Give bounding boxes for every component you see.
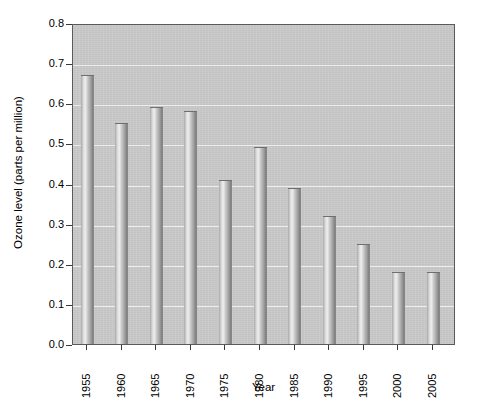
x-axis-title: Year xyxy=(72,381,455,393)
x-axis-tick xyxy=(432,345,433,350)
bar xyxy=(219,180,232,345)
bar xyxy=(288,188,301,344)
y-axis-tick-label: 0.5 xyxy=(6,138,64,149)
y-axis-tick-label: 0.8 xyxy=(6,18,64,29)
bar xyxy=(184,111,197,344)
bar xyxy=(254,147,267,344)
y-axis-tick xyxy=(66,144,72,145)
gridline xyxy=(73,145,454,146)
y-axis-tick xyxy=(66,345,72,346)
x-axis-tick xyxy=(294,345,295,350)
x-axis-tick xyxy=(259,345,260,350)
gridline xyxy=(73,65,454,66)
y-axis-tick xyxy=(66,185,72,186)
y-axis-tick xyxy=(66,104,72,105)
y-axis-tick-label: 0.0 xyxy=(6,339,64,350)
y-axis-tick xyxy=(66,225,72,226)
y-axis-tick-label: 0.3 xyxy=(6,219,64,230)
x-axis-tick xyxy=(397,345,398,350)
gridline xyxy=(73,105,454,106)
x-axis-tick xyxy=(363,345,364,350)
bar xyxy=(115,123,128,344)
bar xyxy=(150,107,163,344)
x-axis-tick xyxy=(155,345,156,350)
y-axis-tick xyxy=(66,24,72,25)
y-axis-tick-label: 0.4 xyxy=(6,179,64,190)
bar xyxy=(357,244,370,344)
bar xyxy=(81,75,94,344)
ozone-level-bar-chart: Ozone level (parts per million) 0.00.10.… xyxy=(0,0,484,409)
y-axis-tick-label: 0.6 xyxy=(6,98,64,109)
y-axis-tick-label: 0.7 xyxy=(6,58,64,69)
bar xyxy=(392,272,405,344)
plot-area xyxy=(72,24,455,345)
x-axis-tick xyxy=(86,345,87,350)
y-axis-tick xyxy=(66,64,72,65)
y-axis-tick-label: 0.2 xyxy=(6,259,64,270)
x-axis-tick xyxy=(328,345,329,350)
y-axis-tick-label: 0.1 xyxy=(6,299,64,310)
x-axis-tick xyxy=(190,345,191,350)
bar xyxy=(427,272,440,344)
bar xyxy=(323,216,336,344)
y-axis-tick xyxy=(66,305,72,306)
y-axis-labels: 0.00.10.20.30.40.50.60.70.8 xyxy=(0,0,64,409)
x-axis-tick xyxy=(121,345,122,350)
x-axis-tick xyxy=(224,345,225,350)
y-axis-tick xyxy=(66,265,72,266)
